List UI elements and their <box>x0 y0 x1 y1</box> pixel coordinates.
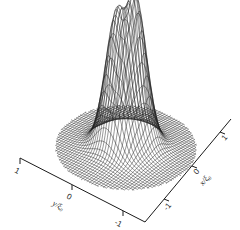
wireframe-mesh <box>55 0 197 190</box>
surface-plot: 1 0 -1 y/ξ₀ -1 0 1 x/ξ₀ <box>0 0 240 230</box>
mesh-line <box>67 92 151 170</box>
y-tick-1: 1 <box>13 166 22 176</box>
x-tick-neg1: -1 <box>162 201 174 213</box>
mesh-line <box>78 0 186 171</box>
mesh-line <box>71 7 181 176</box>
mesh-line <box>132 144 197 190</box>
mesh-line <box>61 112 86 130</box>
y-tick-neg1: -1 <box>113 218 124 230</box>
mesh-line <box>90 86 193 163</box>
y-axis-label: y/ξ₀ <box>50 198 66 212</box>
mesh-line <box>57 108 100 139</box>
y-tick-0: 0 <box>65 192 74 202</box>
mesh-line <box>147 153 196 188</box>
x-axis <box>145 119 231 222</box>
